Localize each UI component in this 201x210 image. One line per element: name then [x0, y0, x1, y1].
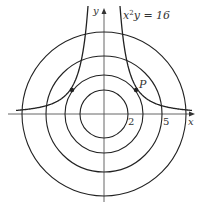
point-P-label: P: [138, 78, 147, 91]
tick-label-2: 2: [128, 116, 134, 127]
y-axis-arrow-icon: [102, 8, 107, 14]
y-axis-label: y: [92, 5, 99, 16]
tick-label-5: 5: [163, 116, 169, 127]
curve-left-branch: [16, 6, 88, 110]
x-axis-label: x: [188, 116, 194, 127]
point-P-dot: [134, 88, 138, 92]
level-curves-diagram: P y x 2 5 x2y = 16: [0, 0, 201, 210]
point-left-dot: [70, 88, 74, 92]
equation-label: x2y = 16: [123, 9, 170, 22]
